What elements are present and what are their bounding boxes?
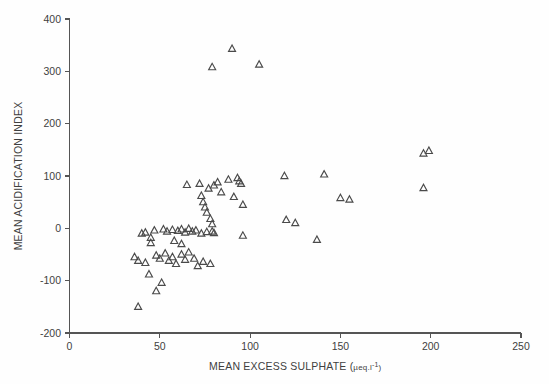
y-axis-title: MEAN ACIDIFICATION INDEX [12, 102, 24, 251]
axes [70, 19, 522, 333]
x-tick-label: 150 [332, 340, 350, 352]
x-tick-label: 50 [154, 340, 166, 352]
data-point-marker [191, 255, 198, 261]
data-point-marker [162, 250, 169, 256]
y-tick-label: 300 [43, 65, 61, 77]
data-point-marker [200, 258, 207, 264]
y-tick-label: 100 [43, 170, 61, 182]
data-point-marker [207, 260, 214, 266]
x-tick-label: 250 [512, 340, 530, 352]
data-point-marker [281, 172, 288, 178]
data-point-marker [283, 216, 290, 222]
data-point-marker [178, 240, 185, 246]
data-markers [131, 45, 432, 309]
data-point-marker [230, 193, 237, 199]
x-tick-label: 200 [422, 340, 440, 352]
data-point-marker [196, 180, 203, 186]
data-point-marker [153, 287, 160, 293]
data-point-marker [142, 259, 149, 265]
data-point-marker [239, 201, 246, 207]
tick-marks [65, 19, 521, 338]
data-point-marker [346, 196, 353, 202]
data-point-marker [313, 236, 320, 242]
plot-canvas: -200-1000100200300400050100150200250 MEA… [0, 0, 549, 384]
data-point-marker [185, 249, 192, 255]
axis-titles: MEAN EXCESS SULPHATE (µeq.l-1)MEAN ACIDI… [12, 102, 382, 372]
scatter-plot-figure: -200-1000100200300400050100150200250 MEA… [0, 0, 549, 384]
data-point-marker [225, 176, 232, 182]
data-point-marker [256, 61, 263, 67]
y-tick-label: 400 [43, 13, 61, 25]
data-point-marker [321, 171, 328, 177]
data-point-marker [214, 178, 221, 184]
data-point-marker [425, 147, 432, 153]
data-point-marker [145, 271, 152, 277]
data-point-marker [209, 63, 216, 69]
data-point-marker [198, 192, 205, 198]
data-point-marker [135, 303, 142, 309]
x-tick-label: 100 [241, 340, 259, 352]
data-point-marker [169, 253, 176, 259]
data-point-marker [229, 45, 236, 51]
data-point-marker [218, 188, 225, 194]
x-tick-label: 0 [67, 340, 73, 352]
data-point-marker [151, 227, 158, 233]
y-tick-label: -200 [40, 327, 61, 339]
x-axis-title: MEAN EXCESS SULPHATE (µeq.l-1) [209, 360, 381, 372]
data-point-marker [420, 184, 427, 190]
data-point-marker [239, 232, 246, 238]
y-tick-label: -100 [40, 274, 61, 286]
data-point-marker [337, 194, 344, 200]
data-point-marker [183, 181, 190, 187]
y-tick-label: 200 [43, 117, 61, 129]
y-tick-label: 0 [55, 222, 61, 234]
data-point-marker [171, 237, 178, 243]
data-point-marker [292, 219, 299, 225]
data-point-marker [173, 260, 180, 266]
tick-labels: -200-1000100200300400050100150200250 [40, 13, 530, 352]
data-point-marker [210, 229, 217, 235]
data-point-marker [178, 251, 185, 257]
data-point-marker [158, 279, 165, 285]
